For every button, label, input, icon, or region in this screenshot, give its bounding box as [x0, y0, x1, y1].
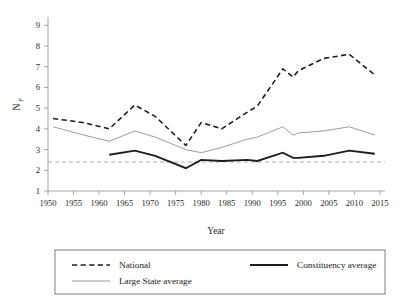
- y-axis-title-subscript: F: [17, 98, 24, 102]
- x-tick-label: 1995: [269, 198, 286, 208]
- series-line-large-state-average: [53, 127, 375, 153]
- y-tick-label: 1: [36, 186, 40, 196]
- y-axis-ticks: 123456789: [36, 20, 48, 196]
- legend-label-national: National: [119, 260, 151, 270]
- y-tick-label: 9: [36, 20, 40, 30]
- x-tick-label: 1965: [116, 198, 133, 208]
- y-tick-label: 6: [36, 82, 41, 92]
- y-axis-title: N F: [11, 98, 24, 111]
- x-tick-label: 1990: [244, 198, 261, 208]
- y-tick-label: 7: [36, 62, 41, 72]
- series-line-constituency-average: [109, 151, 375, 169]
- x-tick-label: 1980: [193, 198, 210, 208]
- x-axis-title: Year: [207, 226, 225, 236]
- data-series-group: [53, 54, 375, 168]
- chart-figure: 123456789 195019551960196519701975198019…: [0, 0, 400, 300]
- x-tick-label: 2015: [371, 198, 388, 208]
- x-tick-label: 1950: [39, 198, 56, 208]
- x-tick-label: 1985: [218, 198, 235, 208]
- y-tick-label: 8: [36, 41, 40, 51]
- y-tick-label: 4: [36, 124, 41, 134]
- y-axis-title-main: N: [11, 103, 22, 110]
- legend-label-large-state-average: Large State average: [119, 276, 192, 286]
- x-tick-label: 1960: [90, 198, 107, 208]
- x-tick-label: 1970: [142, 198, 159, 208]
- x-tick-label: 2000: [295, 198, 312, 208]
- x-tick-label: 2005: [320, 198, 337, 208]
- x-tick-label: 1955: [65, 198, 82, 208]
- legend: NationalConstituency averageLarge State …: [72, 260, 376, 286]
- y-tick-label: 5: [36, 103, 40, 113]
- y-tick-label: 3: [36, 145, 40, 155]
- line-chart: 123456789 195019551960196519701975198019…: [0, 0, 400, 300]
- x-axis-ticks: 1950195519601965197019751980198519901995…: [39, 191, 388, 208]
- series-line-national: [53, 54, 375, 145]
- x-tick-label: 2010: [346, 198, 363, 208]
- legend-border: [55, 250, 385, 294]
- x-tick-label: 1975: [167, 198, 184, 208]
- legend-label-constituency-average: Constituency average: [297, 260, 376, 270]
- y-tick-label: 2: [36, 165, 40, 175]
